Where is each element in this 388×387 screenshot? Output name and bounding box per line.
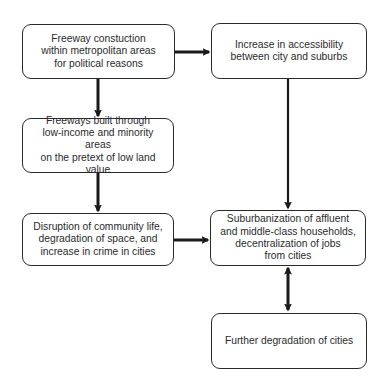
node-freeway-construction: Freeway constuction within metropolitan … <box>22 24 175 79</box>
flowchart-canvas: Freeway constuction within metropolitan … <box>0 0 388 387</box>
node-freeways-low-income-areas: Freeways built through low-income and mi… <box>22 118 174 173</box>
node-disruption-community-life: Disruption of community life, degradatio… <box>22 213 174 266</box>
node-increase-accessibility: Increase in accessibility between city a… <box>211 23 367 79</box>
node-suburbanization: Suburbanization of affluent and middle-c… <box>210 210 366 266</box>
node-further-degradation: Further degradation of cities <box>211 313 367 369</box>
